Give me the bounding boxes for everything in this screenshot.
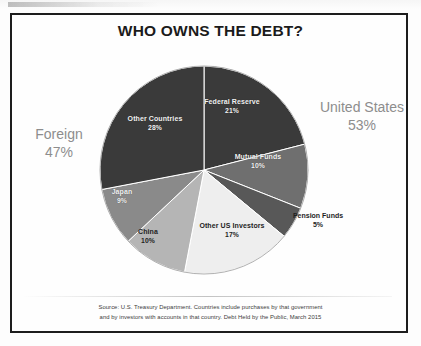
slice-name: Other Countries — [128, 115, 183, 122]
slice-pct: 10% — [123, 237, 173, 245]
group-name: United States — [320, 99, 404, 115]
slice-label-federal-reserve: Federal Reserve 21% — [187, 98, 277, 115]
slice-pct: 28% — [110, 124, 200, 132]
scanned-page: WHO OWNS THE DEBT? Federal Reserve 21% M… — [0, 0, 421, 346]
slice-pct: 21% — [187, 107, 277, 115]
slice-name: Pension Funds — [293, 212, 343, 219]
slice-label-other-countries: Other Countries 28% — [110, 115, 200, 132]
group-pct: 47% — [14, 143, 104, 161]
slice-label-japan: Japan 9% — [97, 188, 147, 205]
source-note: Source: U.S. Treasury Department. Countr… — [0, 303, 421, 322]
source-line-2: and by investors with accounts in that c… — [0, 313, 421, 323]
slice-pct: 17% — [187, 231, 277, 239]
slice-pct: 10% — [217, 162, 299, 170]
pie-chart: Federal Reserve 21% Mutual Funds 10% Oth… — [99, 65, 309, 275]
slice-name: Japan — [112, 188, 133, 195]
source-line-1: Source: U.S. Treasury Department. Countr… — [0, 303, 421, 313]
slice-name: Other US Investors — [199, 222, 264, 229]
slice-label-china: China 10% — [123, 228, 173, 245]
group-label-foreign: Foreign 47% — [14, 125, 104, 162]
slice-label-other-us-investors: Other US Investors 17% — [187, 222, 277, 239]
group-name: Foreign — [35, 126, 82, 142]
group-pct: 53% — [310, 116, 414, 134]
slice-name: China — [138, 228, 158, 235]
slice-label-pension-funds: Pension Funds 5% — [276, 212, 360, 230]
slice-name: Federal Reserve — [204, 98, 260, 105]
slice-pct: 9% — [97, 197, 147, 205]
chart-title: WHO OWNS THE DEBT? — [0, 22, 421, 40]
scan-rule-line — [22, 296, 392, 297]
slice-label-mutual-funds: Mutual Funds 10% — [217, 153, 299, 170]
group-label-united-states: United States 53% — [310, 98, 414, 135]
slice-name: Mutual Funds — [235, 153, 282, 160]
slice-pct: 5% — [276, 221, 360, 230]
scan-artifact-streak — [8, 2, 158, 7]
